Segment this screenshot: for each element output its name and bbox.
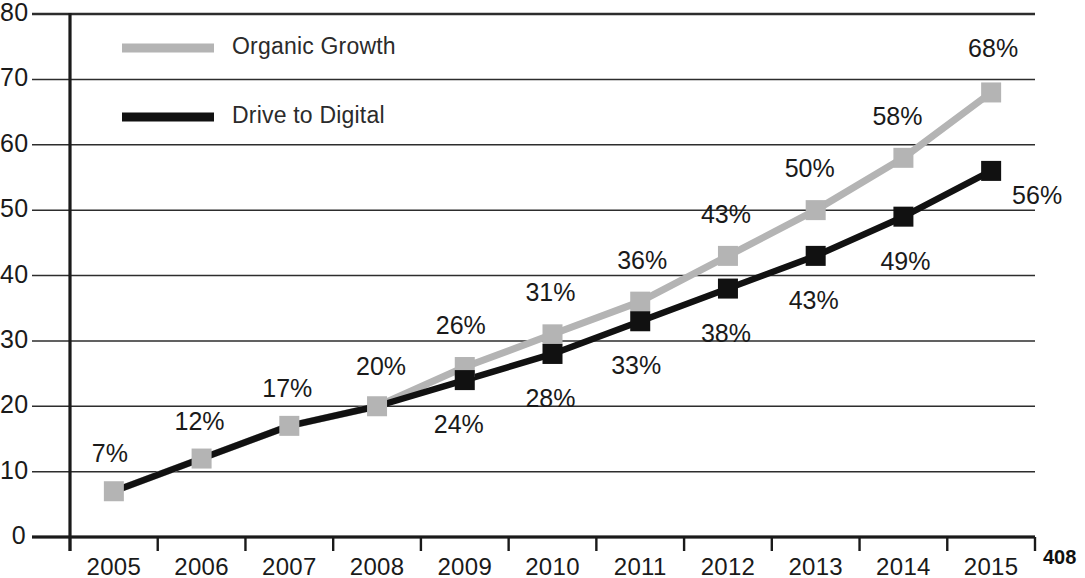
data-point-label: 43%	[759, 286, 869, 315]
data-point-marker	[981, 82, 1001, 102]
data-point-label: 28%	[496, 384, 606, 413]
y-axis-tick-label: 40	[0, 260, 26, 289]
x-axis-tick-label: 2015	[936, 553, 1046, 578]
data-point-marker	[279, 416, 299, 436]
legend-item-label: Drive to Digital	[232, 102, 385, 129]
data-point-marker	[104, 481, 124, 501]
legend-item-label: Organic Growth	[232, 33, 396, 60]
y-axis-tick-label: 80	[0, 0, 26, 27]
data-point-marker	[718, 246, 738, 266]
data-point-label: 7%	[55, 439, 165, 468]
data-point-label: 20%	[326, 352, 436, 381]
legend-swatch-group	[122, 48, 214, 117]
data-point-label: 49%	[850, 247, 960, 276]
data-point-label: 12%	[145, 407, 255, 436]
data-point-marker	[192, 449, 212, 469]
data-point-label: 43%	[671, 200, 781, 229]
data-point-label: 58%	[842, 102, 952, 131]
data-point-marker	[455, 370, 475, 390]
data-point-label: 56%	[982, 181, 1085, 210]
data-point-marker	[543, 324, 563, 344]
data-point-marker	[630, 292, 650, 312]
data-point-label: 31%	[496, 278, 606, 307]
data-point-marker	[630, 311, 650, 331]
data-point-label: 33%	[581, 351, 691, 380]
y-axis-tick-label: 20	[0, 390, 26, 419]
y-axis-tick-label: 0	[0, 521, 26, 550]
data-point-marker	[367, 396, 387, 416]
data-point-marker	[718, 279, 738, 299]
data-point-label: 36%	[587, 246, 697, 275]
chart-container: 01020304050607080 2005200620072008200920…	[0, 0, 1085, 578]
data-point-marker	[543, 344, 563, 364]
y-axis-tick-label: 60	[0, 129, 26, 158]
data-point-marker	[806, 200, 826, 220]
y-axis-tick-label: 70	[0, 63, 26, 92]
data-point-label: 24%	[404, 410, 514, 439]
x-tick-marks-group	[70, 537, 1035, 551]
data-point-marker	[806, 246, 826, 266]
data-point-label: 68%	[938, 34, 1048, 63]
data-point-marker	[981, 161, 1001, 181]
y-axis-tick-label: 10	[0, 456, 26, 485]
data-point-label: 38%	[671, 319, 781, 348]
page-number: 408	[1043, 546, 1076, 569]
data-point-label: 26%	[406, 311, 516, 340]
y-axis-tick-label: 50	[0, 194, 26, 223]
data-point-label: 50%	[755, 154, 865, 183]
data-point-marker	[893, 148, 913, 168]
y-axis-tick-label: 30	[0, 325, 26, 354]
data-point-marker	[893, 207, 913, 227]
